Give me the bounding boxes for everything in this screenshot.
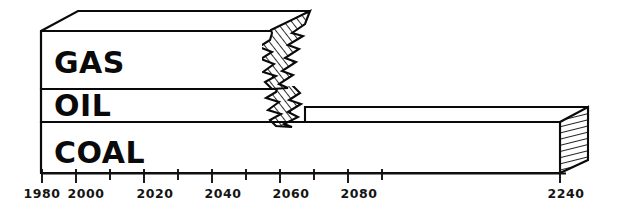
axis-tick-label-2080: 2080 [340, 186, 377, 201]
axis-tick-label-1980: 1980 [23, 186, 60, 201]
bar-gas-label: GAS [54, 45, 125, 80]
axis-tick-label-2060: 2060 [272, 186, 309, 201]
axis-tick-label-2000: 2000 [67, 186, 104, 201]
bar-oil-label: OIL [54, 88, 111, 123]
bar-gas: GAS [41, 11, 310, 89]
axis-tick-label-2040: 2040 [204, 186, 241, 201]
bar-coal-label: COAL [54, 135, 145, 170]
fossil-fuel-reserves-chart: COAL OIL GAS [0, 0, 623, 209]
bar-coal-top-face [305, 107, 588, 122]
axis-tick-label-2020: 2020 [136, 186, 173, 201]
axis-tick-label-2240: 2240 [547, 186, 584, 201]
bar-gas-top-face [41, 11, 310, 31]
chart-canvas: COAL OIL GAS [0, 0, 623, 209]
